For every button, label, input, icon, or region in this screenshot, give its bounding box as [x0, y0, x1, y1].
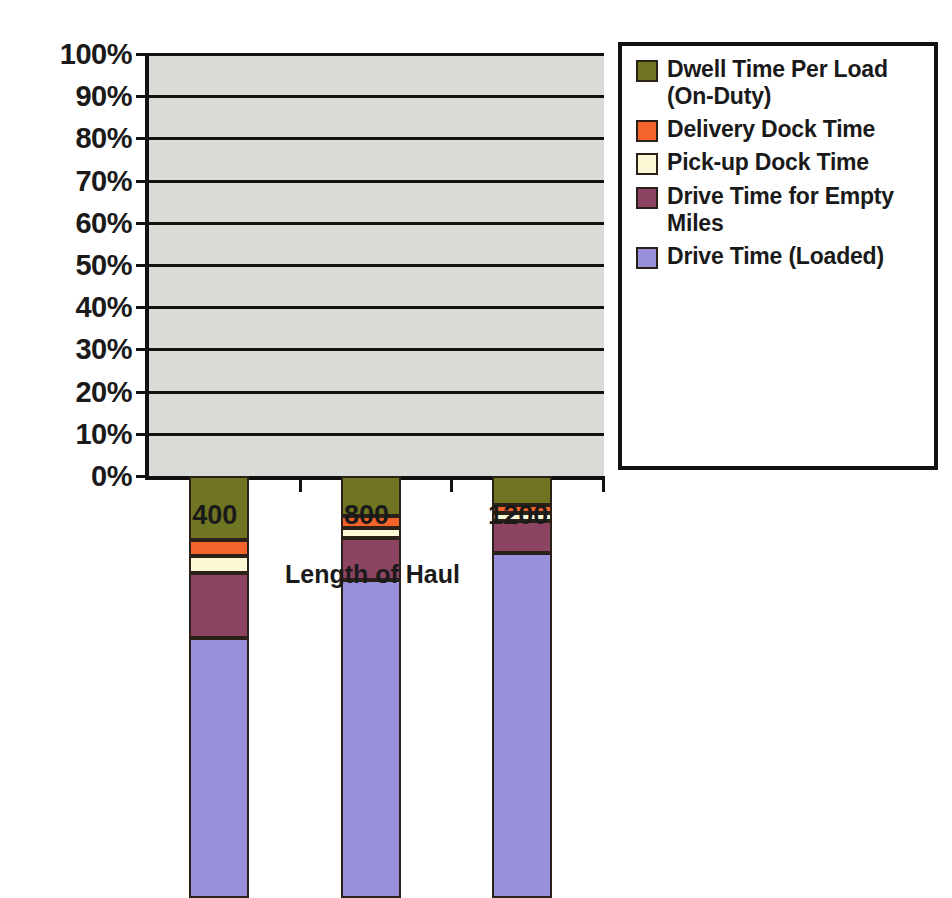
legend-label: Drive Time for Empty Miles	[667, 183, 926, 237]
y-axis-tick	[136, 348, 149, 351]
y-axis-tick-labels: 0%10%20%30%40%50%60%70%80%90%100%	[18, 54, 140, 476]
y-axis-tick-label: 30%	[75, 335, 132, 364]
y-axis-tick-label: 10%	[75, 419, 132, 448]
gridline	[149, 222, 604, 225]
gridline	[149, 53, 604, 56]
y-axis-tick-label: 40%	[75, 293, 132, 322]
y-axis-tick	[136, 222, 149, 225]
y-axis-tick	[136, 137, 149, 140]
legend-swatch-icon	[636, 120, 658, 142]
legend-label: Pick-up Dock Time	[667, 149, 869, 176]
bar-segment	[492, 553, 552, 898]
y-axis-tick-label: 20%	[75, 377, 132, 406]
x-axis-tick-labels: 4008001200	[145, 500, 600, 534]
y-axis-tick-label: 60%	[75, 208, 132, 237]
y-axis-tick	[136, 53, 149, 56]
y-axis-tick-label: 0%	[91, 462, 132, 491]
x-axis-tick	[299, 476, 302, 492]
y-axis-tick-label: 80%	[75, 124, 132, 153]
legend-item[interactable]: Dwell Time Per Load (On-Duty)	[636, 56, 926, 110]
x-axis-tick	[450, 476, 453, 492]
y-axis-tick-label: 90%	[75, 82, 132, 111]
gridline	[149, 264, 604, 267]
y-axis-tick-label: 70%	[75, 166, 132, 195]
y-axis-tick	[136, 475, 149, 478]
x-axis-tick-label: 400	[192, 500, 237, 531]
bar-segment	[189, 638, 249, 898]
legend-item[interactable]: Pick-up Dock Time	[636, 149, 926, 176]
legend-item[interactable]: Drive Time (Loaded)	[636, 243, 926, 270]
y-axis-tick	[136, 433, 149, 436]
x-axis-tick-label: 800	[344, 500, 389, 531]
plot-area	[145, 54, 604, 480]
legend-swatch-icon	[636, 247, 658, 269]
legend-items: Dwell Time Per Load (On-Duty)Delivery Do…	[636, 56, 926, 276]
y-axis-tick	[136, 391, 149, 394]
legend-item[interactable]: Delivery Dock Time	[636, 116, 926, 143]
gridline	[149, 95, 604, 98]
chart-legend: Dwell Time Per Load (On-Duty)Delivery Do…	[618, 42, 938, 470]
legend-label: Delivery Dock Time	[667, 116, 875, 143]
gridline	[149, 348, 604, 351]
y-axis-tick	[136, 306, 149, 309]
y-axis-tick	[136, 95, 149, 98]
legend-item[interactable]: Drive Time for Empty Miles	[636, 183, 926, 237]
y-axis-tick	[136, 180, 149, 183]
gridline	[149, 391, 604, 394]
x-axis-title: Length of Haul	[145, 560, 600, 589]
gridline	[149, 306, 604, 309]
gridline	[149, 433, 604, 436]
y-axis-tick-label: 50%	[75, 251, 132, 280]
legend-swatch-icon	[636, 60, 658, 82]
y-axis-tick	[136, 264, 149, 267]
gridline	[149, 137, 604, 140]
legend-swatch-icon	[636, 187, 658, 209]
legend-swatch-icon	[636, 153, 658, 175]
bar-segment	[189, 540, 249, 556]
bar-segment	[341, 580, 401, 898]
legend-label: Drive Time (Loaded)	[667, 243, 884, 270]
y-axis-tick-label: 100%	[60, 40, 132, 69]
legend-label: Dwell Time Per Load (On-Duty)	[667, 56, 926, 110]
gridline	[149, 180, 604, 183]
x-axis-tick	[602, 476, 605, 492]
x-axis-tick-label: 1200	[488, 500, 548, 531]
